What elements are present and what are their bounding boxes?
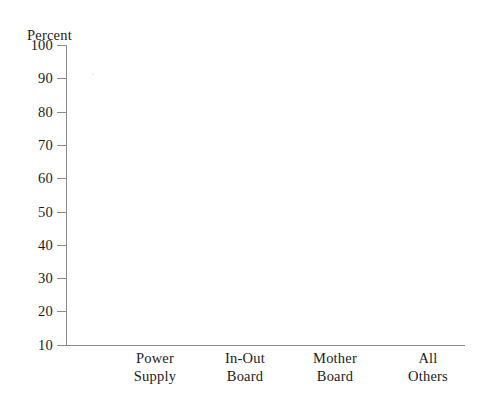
x-axis-category-line1: In-Out	[225, 350, 265, 366]
y-axis-tick-label: 10	[19, 338, 53, 353]
y-axis-tick-label: 60	[19, 171, 53, 186]
y-axis-tick-label: 70	[19, 138, 53, 153]
y-axis-tick-mark	[57, 178, 67, 179]
x-axis-line	[66, 345, 465, 346]
y-axis-tick-mark	[57, 112, 67, 113]
y-axis-tick-label: 20	[19, 304, 53, 319]
y-axis-tick-mark	[57, 311, 67, 312]
y-axis-tick-mark	[57, 78, 67, 79]
y-axis-tick-mark	[57, 345, 67, 346]
y-axis-tick-mark	[57, 212, 67, 213]
x-axis-category-line2: Others	[373, 368, 482, 386]
x-axis-category-line1: All	[418, 350, 437, 366]
y-axis-tick-label: 90	[19, 71, 53, 86]
x-axis-category-line1: Power	[136, 350, 174, 366]
y-axis-tick-mark	[57, 145, 67, 146]
y-axis-line	[66, 45, 67, 346]
scan-speck	[92, 73, 94, 75]
y-axis-tick-mark	[57, 278, 67, 279]
y-axis-tick-label: 40	[19, 238, 53, 253]
y-axis-tick-label: 100	[19, 38, 53, 53]
y-axis-tick-label: 80	[19, 105, 53, 120]
x-axis-category-label: AllOthers	[373, 350, 482, 385]
chart-figure: Percent 100908070605040302010 PowerSuppl…	[0, 0, 482, 411]
y-axis-tick-label: 50	[19, 205, 53, 220]
x-axis-category-line1: Mother	[313, 350, 357, 366]
y-axis-tick-label: 30	[19, 271, 53, 286]
y-axis-tick-mark	[57, 45, 67, 46]
y-axis-tick-mark	[57, 245, 67, 246]
